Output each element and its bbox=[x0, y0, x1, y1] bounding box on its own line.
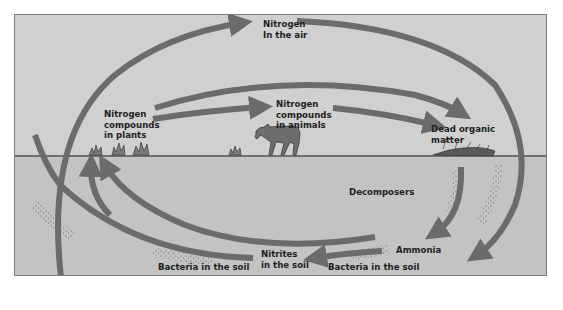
label-line: in animals bbox=[276, 120, 332, 131]
label-nitrogen-compounds-plants: Nitrogen compounds in plants bbox=[104, 109, 160, 141]
label-ammonia: Ammonia bbox=[396, 245, 441, 256]
label-dead-organic-matter: Dead organic matter bbox=[431, 124, 495, 145]
arrow-animals-to-dead-matter bbox=[333, 108, 435, 125]
label-decomposers: Decomposers bbox=[349, 187, 414, 198]
arrow-plants-to-animals bbox=[153, 107, 261, 119]
label-nitrogen-in-air: Nitrogen In the air bbox=[263, 19, 307, 40]
label-bacteria-in-soil-right: Bacteria in the soil bbox=[328, 262, 419, 273]
grass-tufts bbox=[89, 142, 241, 155]
cycle-arrows bbox=[15, 15, 547, 276]
label-line: in plants bbox=[104, 130, 160, 141]
label-nitrites-in-soil: Nitrites in the soil bbox=[261, 249, 309, 270]
label-line: compounds bbox=[104, 120, 160, 131]
label-line: Nitrogen bbox=[104, 109, 160, 120]
label-line: Nitrites bbox=[261, 249, 309, 260]
label-line: compounds bbox=[276, 110, 332, 121]
label-bacteria-in-soil-left: Bacteria in the soil bbox=[158, 262, 249, 273]
label-line: matter bbox=[431, 135, 495, 146]
label-line: in the soil bbox=[261, 260, 309, 271]
label-line: Nitrogen bbox=[276, 99, 332, 110]
label-line: Dead organic bbox=[431, 124, 495, 135]
label-line: Nitrogen bbox=[263, 19, 307, 30]
label-line: In the air bbox=[263, 30, 307, 41]
arrow-ammonia-to-plants bbox=[105, 165, 375, 244]
nitrogen-cycle-diagram: Nitrogen In the air Nitrogen compounds i… bbox=[14, 14, 547, 276]
label-nitrogen-compounds-animals: Nitrogen compounds in animals bbox=[276, 99, 332, 131]
